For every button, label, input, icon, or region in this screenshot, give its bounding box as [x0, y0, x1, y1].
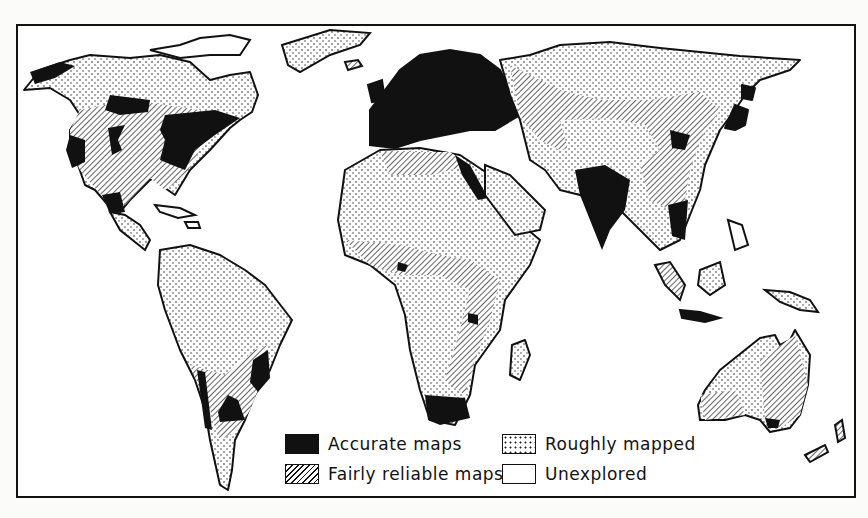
legend-item-roughly-mapped: Roughly mapped	[502, 433, 696, 455]
legend-label: Unexplored	[545, 464, 647, 484]
legend-label: Fairly reliable maps	[328, 464, 503, 484]
dotted-swatch	[502, 434, 536, 454]
empty-swatch	[502, 464, 536, 484]
accurate-swatch	[285, 434, 319, 454]
legend-item-accurate: Accurate maps	[285, 433, 462, 455]
legend-label: Accurate maps	[328, 434, 462, 454]
hatch-swatch	[285, 464, 319, 484]
legend-label: Roughly mapped	[545, 434, 696, 454]
legend-item-unexplored: Unexplored	[502, 463, 647, 485]
map-legend: Accurate maps Fairly reliable maps Rough…	[285, 433, 705, 491]
legend-item-fairly-reliable: Fairly reliable maps	[285, 463, 503, 485]
